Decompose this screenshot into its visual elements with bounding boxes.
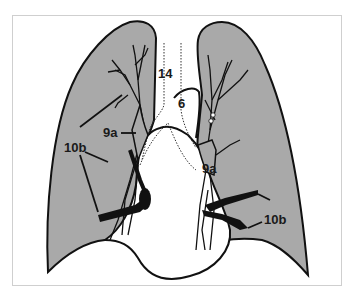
label-station-6: 6 xyxy=(178,96,185,111)
left-node-2 xyxy=(209,119,213,123)
lung-diagram: 14 6 9a 9a 10b 10b xyxy=(0,0,355,302)
label-station-9a-left: 9a xyxy=(202,161,217,176)
label-station-9a-right: 9a xyxy=(103,125,118,140)
left-node-1 xyxy=(211,113,215,117)
label-station-10b-left: 10b xyxy=(264,212,286,227)
label-station-14: 14 xyxy=(158,66,173,81)
label-station-10b-right: 10b xyxy=(64,140,86,155)
